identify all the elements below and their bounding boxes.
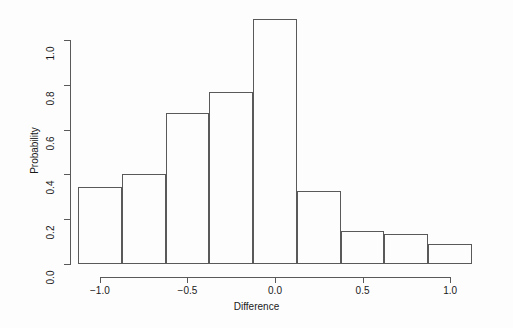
y-tick-label: 0.0 [45, 263, 56, 293]
histogram-bar [297, 191, 341, 264]
y-tick-label: 0.8 [45, 83, 56, 113]
y-tick-mark [64, 85, 70, 86]
y-axis-label: Probability [29, 101, 40, 201]
histogram-plot: 0.00.20.40.60.81.0 Probability −1.0−0.50… [0, 0, 513, 328]
histogram-bar [253, 19, 297, 264]
histogram-bar [428, 244, 472, 264]
x-tick-mark [275, 277, 276, 283]
histogram-bar [341, 231, 385, 264]
x-tick-mark [363, 277, 364, 283]
histogram-bar [122, 174, 166, 264]
x-tick-label: −1.0 [80, 285, 120, 296]
histogram-bar [209, 92, 253, 264]
y-tick-label: 0.2 [45, 218, 56, 248]
y-tick-mark [64, 264, 70, 265]
y-tick-mark [64, 219, 70, 220]
x-tick-mark [187, 277, 188, 283]
y-tick-label: 0.4 [45, 173, 56, 203]
x-tick-label: −0.5 [167, 285, 207, 296]
x-tick-label: 0.5 [343, 285, 383, 296]
x-tick-mark [100, 277, 101, 283]
x-tick-label: 0.0 [255, 285, 295, 296]
plot-panel [0, 0, 513, 328]
y-tick-mark [64, 130, 70, 131]
x-tick-mark [450, 277, 451, 283]
y-tick-mark [64, 174, 70, 175]
y-tick-label: 1.0 [45, 39, 56, 69]
y-axis-line [70, 40, 71, 265]
histogram-bar [78, 187, 122, 264]
x-axis-label: Difference [0, 301, 513, 312]
y-tick-label: 0.6 [45, 128, 56, 158]
y-tick-mark [64, 40, 70, 41]
histogram-bar [384, 234, 428, 264]
x-tick-label: 1.0 [430, 285, 470, 296]
histogram-bar [166, 113, 210, 264]
